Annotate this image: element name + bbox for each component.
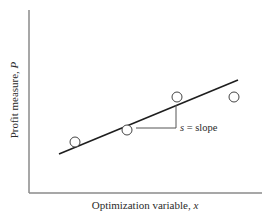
data-point-marker: [229, 92, 239, 102]
slope-annotation: s = slope: [180, 122, 218, 133]
data-point-marker: [122, 125, 132, 135]
fit-line: [59, 80, 238, 154]
y-axis-label: Profit measure, P: [8, 61, 20, 138]
chart: s = slope Optimization variable, x Profi…: [0, 0, 265, 219]
x-axis-label: Optimization variable, x: [92, 199, 199, 211]
data-point-marker: [70, 137, 80, 147]
data-point-marker: [172, 92, 182, 102]
